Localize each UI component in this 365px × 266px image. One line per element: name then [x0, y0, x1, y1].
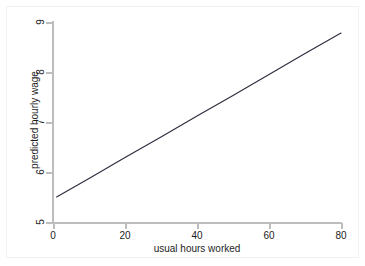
series-line-predicted-hourly-wage — [57, 33, 341, 197]
chart-figure: 9 8 7 6 5 0 20 40 60 80 usual hours work… — [0, 0, 365, 266]
data-line-layer — [0, 0, 365, 266]
